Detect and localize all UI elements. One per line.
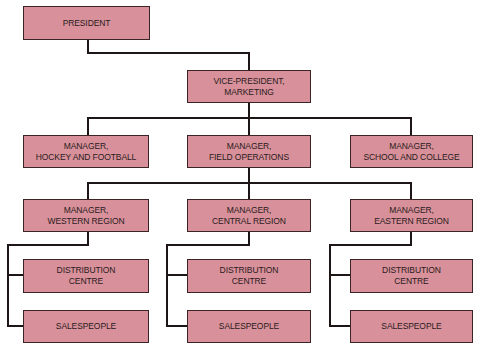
node-manager-central-region: MANAGER, CENTRAL REGION: [187, 199, 311, 232]
connector-hockey-in: [87, 117, 89, 135]
connector-western-horizontal: [7, 244, 89, 246]
connector-western-in: [87, 182, 89, 199]
org-chart: PRESIDENT VICE-PRESIDENT, MARKETING MANA…: [0, 0, 479, 352]
connector-eastern-sales: [329, 325, 350, 327]
node-salespeople-western: SALESPEOPLE: [23, 310, 149, 343]
connector-eastern-dist: [329, 274, 350, 276]
node-distribution-centre-central: DISTRIBUTION CENTRE: [187, 259, 311, 293]
connector-president-vp-horizontal: [87, 52, 250, 54]
connector-level2-horizontal: [87, 117, 412, 119]
connector-central-horizontal: [166, 244, 250, 246]
connector-western-dist: [7, 274, 23, 276]
connector-central-dist: [166, 274, 187, 276]
connector-central-sales: [166, 325, 187, 327]
connector-western-rail: [7, 244, 9, 327]
node-distribution-centre-eastern: DISTRIBUTION CENTRE: [350, 259, 473, 293]
node-manager-hockey-football: MANAGER, HOCKEY AND FOOTBALL: [23, 135, 149, 168]
connector-eastern-rail: [329, 244, 331, 327]
node-president: PRESIDENT: [23, 6, 150, 40]
node-manager-school-college: MANAGER, SCHOOL AND COLLEGE: [350, 135, 473, 168]
connector-vp-in: [248, 52, 250, 70]
node-salespeople-eastern: SALESPEOPLE: [350, 310, 473, 343]
connector-level3-horizontal: [87, 182, 412, 184]
connector-central-rail: [166, 244, 168, 327]
node-vp-marketing: VICE-PRESIDENT, MARKETING: [187, 70, 311, 103]
connector-eastern-horizontal: [329, 244, 412, 246]
node-salespeople-central: SALESPEOPLE: [187, 310, 311, 343]
node-manager-field-operations: MANAGER, FIELD OPERATIONS: [187, 135, 311, 168]
connector-school-in: [410, 117, 412, 135]
node-manager-western-region: MANAGER, WESTERN REGION: [23, 199, 149, 232]
node-manager-eastern-region: MANAGER, EASTERN REGION: [350, 199, 473, 232]
connector-eastern-in: [410, 182, 412, 199]
node-distribution-centre-western: DISTRIBUTION CENTRE: [23, 259, 149, 293]
connector-western-sales: [7, 325, 23, 327]
